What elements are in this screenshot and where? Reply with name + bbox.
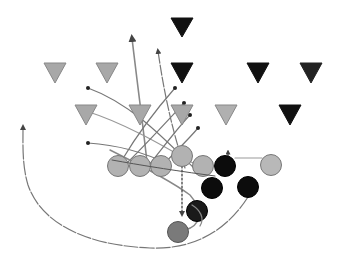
offense-player — [168, 222, 189, 243]
offense — [108, 146, 282, 243]
defender-triangle — [75, 105, 97, 125]
defender-triangle — [96, 63, 118, 83]
offense-player — [108, 156, 129, 177]
defense — [44, 18, 322, 125]
defender-triangle — [300, 63, 322, 83]
offense-player — [187, 201, 208, 222]
offense-player — [151, 156, 172, 177]
defender-triangle — [279, 105, 301, 125]
defender-triangle — [171, 63, 193, 83]
offense-player — [172, 146, 193, 167]
defender-triangle — [44, 63, 66, 83]
defender-triangle — [171, 18, 193, 37]
defender-triangle — [247, 63, 269, 83]
defender-triangle — [215, 105, 237, 125]
offense-player — [261, 155, 282, 176]
offense-player — [238, 177, 259, 198]
offense-player — [202, 178, 223, 199]
offense-player — [215, 156, 236, 177]
play-diagram — [0, 0, 339, 263]
